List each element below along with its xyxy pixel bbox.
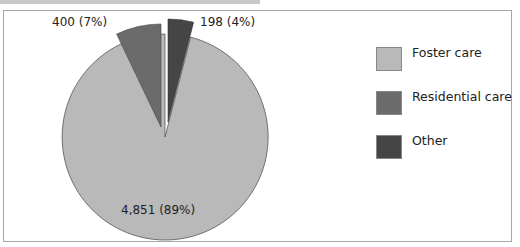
label-residential-care: 400 (7%) xyxy=(52,15,107,29)
label-other: 198 (4%) xyxy=(200,15,255,29)
legend-item-other: Other xyxy=(376,135,448,159)
legend-item-residential-care: Residential care xyxy=(376,91,512,115)
legend-swatch-residential-care xyxy=(376,91,402,115)
legend-swatch-foster-care xyxy=(376,47,402,71)
legend-label: Residential care xyxy=(412,89,512,104)
legend-swatch-other xyxy=(376,135,402,159)
legend-item-foster-care: Foster care xyxy=(376,47,482,71)
pie-chart xyxy=(0,0,520,247)
legend-label: Other xyxy=(412,133,448,148)
legend-label: Foster care xyxy=(412,45,482,60)
label-foster-care: 4,851 (89%) xyxy=(121,203,195,217)
